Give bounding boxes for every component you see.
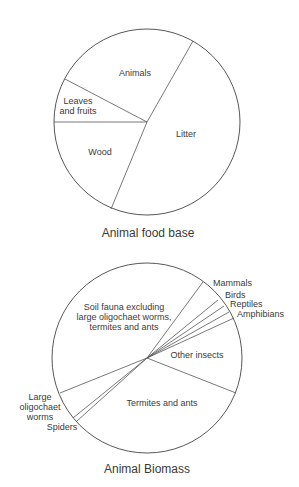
slice-label-leaves-2: and fruits	[59, 106, 97, 116]
slice-label-worms-3: worms	[26, 412, 54, 422]
biomass-pie: Soil fauna excluding large oligochaet wo…	[19, 263, 284, 476]
slice-label-mammals: Mammals	[213, 278, 253, 288]
figure: Animals Leaves and fruits Wood Litter An…	[0, 0, 299, 487]
slice-label-animals: Animals	[119, 68, 152, 78]
food-base-caption: Animal food base	[102, 226, 195, 240]
slice-label-soil-1: Soil fauna excluding	[84, 302, 165, 312]
slice-label-other-insects: Other insects	[170, 350, 224, 360]
slice-label-litter: Litter	[176, 129, 196, 139]
slice-label-reptiles: Reptiles	[230, 299, 263, 309]
slice-label-worms-2: oligochaet	[19, 402, 61, 412]
slice-label-soil-2: large oligochaet worms,	[76, 312, 171, 322]
slice-label-termites: Termites and ants	[126, 398, 198, 408]
slice-label-soil-3: termites and ants	[89, 322, 159, 332]
slice-label-amphibians: Amphibians	[237, 309, 285, 319]
slice-label-spiders: Spiders	[47, 422, 78, 432]
slice-label-leaves-1: Leaves	[63, 96, 93, 106]
biomass-caption: Animal Biomass	[104, 462, 190, 476]
slice-label-wood: Wood	[88, 147, 111, 157]
food-base-pie: Animals Leaves and fruits Wood Litter An…	[54, 29, 240, 240]
slice-label-worms-1: Large	[28, 392, 51, 402]
